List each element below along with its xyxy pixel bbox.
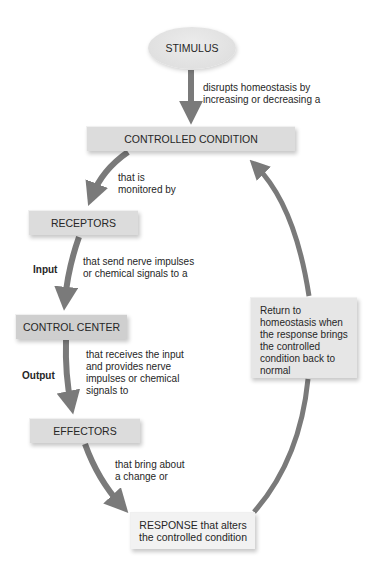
line-response-to-return (254, 379, 308, 512)
receptors-label: RECEPTORS (51, 217, 116, 229)
input-label: Input (33, 264, 57, 276)
arrow-control-center-to-effectors (66, 340, 71, 404)
return-to-homeostasis-node: Return to homeostasis when the response … (250, 297, 357, 378)
receptors-node: RECEPTORS (28, 210, 138, 235)
arrow-receptors-to-control-center (65, 237, 79, 300)
arrows-layer (0, 0, 379, 576)
effectors-node: EFFECTORS (29, 418, 140, 443)
edge-label-disrupts: disrupts homeostasis by increasing or de… (203, 82, 320, 106)
arrow-return-to-condition (256, 166, 309, 296)
control-center-label: CONTROL CENTER (23, 321, 120, 333)
controlled-condition-label: CONTROLLED CONDITION (124, 133, 258, 145)
edge-label-monitored: that is monitored by (118, 172, 176, 196)
edge-label-send-impulses: that send nerve impulses or chemical sig… (83, 256, 194, 280)
response-label: RESPONSE that alters the controlled cond… (139, 519, 247, 543)
control-center-node: CONTROL CENTER (15, 314, 127, 339)
controlled-condition-node: CONTROLLED CONDITION (86, 126, 295, 151)
stimulus-node: STIMULUS (148, 27, 236, 69)
effectors-label: EFFECTORS (53, 425, 116, 437)
edge-label-receives-input: that receives the input and provides ner… (86, 349, 184, 397)
stimulus-label: STIMULUS (165, 42, 218, 54)
edge-label-bring-change: that bring about a change or (115, 459, 185, 483)
return-label: Return to homeostasis when the response … (260, 305, 348, 377)
output-label: Output (22, 370, 55, 382)
response-node: RESPONSE that alters the controlled cond… (130, 512, 255, 549)
